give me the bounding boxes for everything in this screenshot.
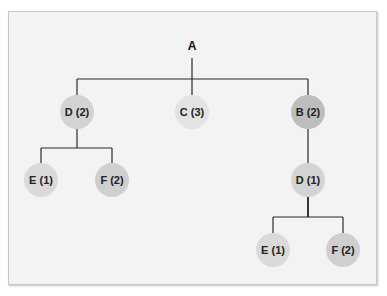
node-label: E (1)	[261, 244, 285, 256]
node-label: C (3)	[180, 106, 205, 118]
node-label: F (2)	[331, 244, 355, 256]
tree-node-B2: B (2)	[291, 95, 325, 129]
node-label: E (1)	[29, 174, 53, 186]
tree-node-F2b: F (2)	[326, 233, 360, 267]
tree-node-D2: D (2)	[60, 95, 94, 129]
node-label: D (2)	[65, 106, 90, 118]
node-label: B (2)	[296, 106, 321, 118]
tree-node-C3: C (3)	[175, 95, 209, 129]
tree-node-D1: D (1)	[291, 163, 325, 197]
node-label: D (1)	[296, 174, 321, 186]
tree-node-E1a: E (1)	[24, 163, 58, 197]
tree-node-F2a: F (2)	[95, 163, 129, 197]
root-node-label: A	[188, 39, 197, 53]
tree-diagram: AD (2)C (3)B (2)E (1)F (2)D (1)E (1)F (2…	[0, 0, 387, 296]
tree-node-E1b: E (1)	[256, 233, 290, 267]
node-label: F (2)	[100, 174, 124, 186]
